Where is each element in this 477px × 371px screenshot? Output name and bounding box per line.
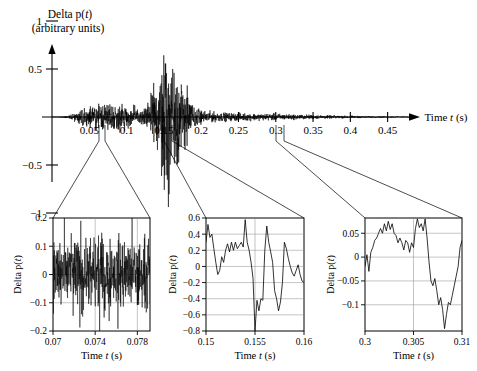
figure-canvas: 10.5−0.5−10.050.10.150.20.250.30.350.40.… [0, 0, 477, 371]
main-x-tick-label: 0.25 [229, 124, 249, 136]
inset-x-tick-label: 0.15 [198, 337, 215, 347]
inset-x-tick-label: 0.3 [359, 337, 371, 347]
inset-y-tick-label: 0.1 [35, 242, 47, 252]
inset-y-tick-label: 0.4 [188, 230, 200, 240]
inset-x-tick-label: 0.305 [403, 337, 425, 347]
inset-y-tick-label: 0.05 [342, 229, 359, 239]
inset-y-axis-label: Delta p(t) [12, 255, 24, 294]
inset-y-tick-label: 0.2 [188, 246, 200, 256]
main-x-axis-label: Time t (s) [425, 111, 468, 124]
main-y-tick-label: −0.5 [22, 159, 42, 171]
inset-y-tick-label: −0.1 [342, 300, 359, 310]
inset-y-tick-label: −0.6 [183, 310, 200, 320]
inset-y-tick-label: 0 [354, 252, 359, 262]
inset-x-tick-label: 0.155 [244, 337, 266, 347]
inset-y-tick-label: 0 [195, 262, 200, 272]
inset-y-tick-label: 0 [42, 270, 47, 280]
inset-x-tick-label: 0.16 [296, 337, 313, 347]
inset-y-tick-label: 0.2 [35, 213, 47, 223]
inset-connector-left [53, 141, 99, 218]
inset-y-tick-label: −0.05 [337, 276, 359, 286]
inset-connector-right [105, 141, 150, 218]
inset-connector-right [172, 141, 304, 218]
main-y-tick-label: 0.5 [28, 63, 42, 75]
inset-y-tick-label: −0.8 [183, 326, 200, 336]
inset-y-tick-label: −0.2 [183, 278, 200, 288]
inset-y-tick-label: −0.2 [30, 326, 47, 336]
main-x-tick-label: 0.45 [378, 124, 398, 136]
main-x-tick-label: 0.2 [194, 124, 208, 136]
inset-connector-left [276, 141, 365, 218]
inset-y-axis-label: Delta p(t) [167, 255, 179, 294]
inset-connector-left [164, 141, 206, 218]
inset-x-axis-label: Time t (s) [81, 350, 123, 362]
y-axis-arrowhead [48, 44, 55, 54]
main-x-tick-label: 0.35 [303, 124, 323, 136]
inset-x-axis-label: Time t (s) [393, 350, 435, 362]
inset-x-tick-label: 0.078 [127, 337, 149, 347]
inset-x-axis-label: Time t (s) [234, 350, 276, 362]
inset-y-tick-label: −0.1 [30, 298, 47, 308]
main-title-line1: Delta p(t) [48, 8, 93, 21]
inset-x-tick-label: 0.07 [45, 337, 62, 347]
inset-x-tick-label: 0.31 [454, 337, 471, 347]
inset-y-tick-label: −0.4 [183, 294, 200, 304]
seismogram-figure: 10.5−0.5−10.050.10.150.20.250.30.350.40.… [0, 0, 477, 371]
inset-x-tick-label: 0.074 [84, 337, 106, 347]
inset-y-axis-label: Delta p(t) [325, 255, 337, 294]
inset-y-tick-label: 0.6 [188, 213, 200, 223]
inset-connector-right [284, 141, 462, 218]
main-x-tick-label: 0.4 [343, 124, 357, 136]
main-title-line2: (arbitrary units) [32, 22, 105, 35]
